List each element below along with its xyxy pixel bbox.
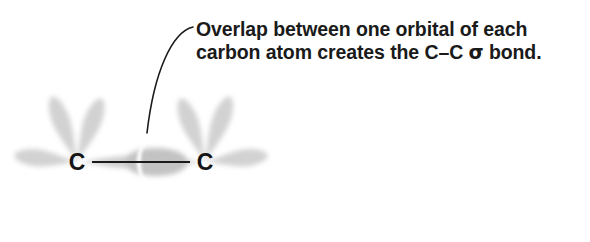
atom-label-carbon-left: C xyxy=(69,151,86,174)
left-carbon-orbital-group xyxy=(13,93,109,170)
caption-line-2: carbon atom creates the C–C σ bond. xyxy=(196,41,576,65)
caption-line-1: Overlap between one orbital of each xyxy=(196,18,576,41)
sigma-symbol: σ xyxy=(468,41,483,64)
atom-label-carbon-right: C xyxy=(197,151,214,174)
caption: Overlap between one orbital of each carb… xyxy=(196,18,576,64)
outer-right-lobe xyxy=(204,147,268,171)
caption-line-2-suffix: bond. xyxy=(484,41,542,63)
orbital-overlap-figure: C C Overlap between one orbital of each … xyxy=(0,0,590,242)
caption-line-2-prefix: carbon atom creates the C–C xyxy=(196,41,468,63)
